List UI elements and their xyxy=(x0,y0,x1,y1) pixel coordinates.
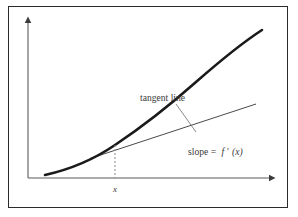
figure-canvas: tangent line slope = f ′ (x) x xyxy=(0,0,298,217)
slope-label-function: f xyxy=(221,146,225,157)
tangent-label-leader xyxy=(176,104,196,132)
tangent-line-label: tangent line xyxy=(140,92,185,103)
x-axis-tick-label: x xyxy=(112,184,117,194)
slope-label-prefix: slope = xyxy=(188,146,216,157)
slope-annotation: slope = f ′ (x) xyxy=(188,146,243,158)
tangent-line-figure: tangent line slope = f ′ (x) x xyxy=(0,0,298,217)
slope-label-prime: ′ xyxy=(227,146,229,157)
slope-label-argument: (x) xyxy=(232,146,243,158)
